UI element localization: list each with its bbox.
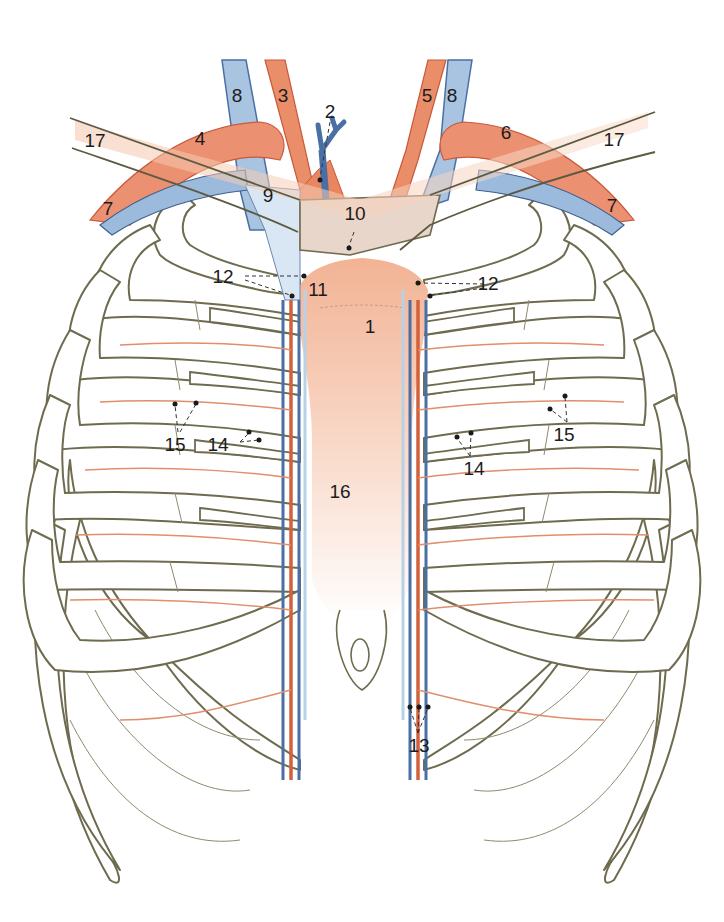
label-17-right: 17 [84, 130, 105, 151]
label-16: 16 [329, 481, 350, 502]
label-15-right: 15 [164, 434, 185, 455]
label-2: 2 [325, 101, 336, 122]
label-10: 10 [344, 203, 365, 224]
label-6: 6 [501, 122, 512, 143]
label-15-left: 15 [553, 424, 574, 445]
label-3: 3 [278, 85, 289, 106]
label-7-right: 7 [103, 198, 114, 219]
label-13: 13 [408, 735, 429, 756]
label-14-right: 14 [207, 434, 229, 455]
label-12-right: 12 [212, 266, 233, 287]
label-1: 1 [365, 316, 376, 337]
label-11: 11 [308, 279, 328, 300]
label-17-left: 17 [603, 129, 624, 150]
label-7-left: 7 [607, 195, 618, 216]
rib-cage-left [24, 195, 300, 883]
label-9: 9 [263, 185, 274, 206]
label-8-left: 8 [447, 85, 458, 106]
label-8-right: 8 [232, 85, 243, 106]
label-14-left: 14 [463, 458, 485, 479]
rib-cage-right [424, 195, 700, 883]
label-12-left: 12 [477, 273, 498, 294]
label-5: 5 [422, 85, 433, 106]
thoracic-wall-diagram: 1 2 3 4 5 6 7 7 8 8 9 10 11 12 12 13 14 … [0, 0, 724, 922]
label-4: 4 [195, 128, 206, 149]
